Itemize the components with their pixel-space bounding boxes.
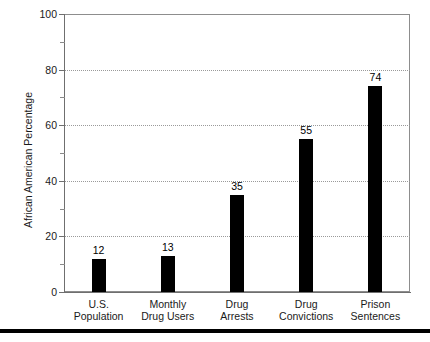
- bar: [230, 195, 244, 292]
- bottom-divider-rule: [0, 329, 430, 333]
- x-category-line: Sentences: [336, 310, 414, 322]
- x-category-line: Arrests: [198, 310, 276, 322]
- y-tick-minor-50: [60, 153, 65, 154]
- y-tick-label-0: 0: [5, 287, 57, 297]
- x-category-line: Prison: [336, 298, 414, 310]
- bar: [299, 139, 313, 292]
- bar-value-label: 12: [77, 245, 121, 256]
- gridline-80: [65, 70, 410, 71]
- x-category-line: Monthly: [129, 298, 207, 310]
- y-tick-label-wrap-60: 60: [0, 120, 57, 130]
- y-tick-label-wrap-100: 100: [0, 9, 57, 19]
- x-category-label: U.S.Population: [60, 298, 138, 322]
- y-tick-label-40: 40: [5, 176, 57, 186]
- x-category-label: DrugArrests: [198, 298, 276, 322]
- x-axis-line: [64, 292, 411, 293]
- x-category-line: Population: [60, 310, 138, 322]
- y-tick-major-100: [59, 14, 65, 15]
- x-category-line: U.S.: [60, 298, 138, 310]
- y-tick-minor-90: [60, 42, 65, 43]
- y-tick-label-wrap-80: 80: [0, 65, 57, 75]
- y-axis-title: African American Percentage: [21, 21, 35, 299]
- bar-chart-figure: African American Percentage 020406080100…: [0, 0, 430, 318]
- y-tick-label-wrap-40: 40: [0, 176, 57, 186]
- y-tick-minor-70: [60, 97, 65, 98]
- y-tick-label-60: 60: [5, 120, 57, 130]
- y-tick-minor-30: [60, 209, 65, 210]
- y-tick-label-wrap-0: 0: [0, 287, 57, 297]
- y-tick-minor-10: [60, 264, 65, 265]
- x-category-line: Drug: [198, 298, 276, 310]
- y-tick-major-80: [59, 70, 65, 71]
- bar-value-label: 55: [284, 125, 328, 136]
- bar: [368, 86, 382, 292]
- bar: [161, 256, 175, 292]
- bar-value-label: 74: [353, 72, 397, 83]
- x-category-line: Drug: [267, 298, 345, 310]
- y-tick-major-0: [59, 292, 65, 293]
- y-tick-major-20: [59, 236, 65, 237]
- y-tick-label-80: 80: [5, 65, 57, 75]
- bar-value-label: 13: [146, 242, 190, 253]
- x-category-label: PrisonSentences: [336, 298, 414, 322]
- y-tick-label-wrap-20: 20: [0, 231, 57, 241]
- y-tick-label-20: 20: [5, 231, 57, 241]
- y-tick-major-40: [59, 181, 65, 182]
- bar: [92, 259, 106, 292]
- y-tick-label-100: 100: [5, 9, 57, 19]
- gridline-60: [65, 125, 410, 126]
- x-category-line: Convictions: [267, 310, 345, 322]
- bar-value-label: 35: [215, 181, 259, 192]
- x-category-line: Drug Users: [129, 310, 207, 322]
- x-category-label: DrugConvictions: [267, 298, 345, 322]
- y-tick-major-60: [59, 125, 65, 126]
- x-category-label: MonthlyDrug Users: [129, 298, 207, 322]
